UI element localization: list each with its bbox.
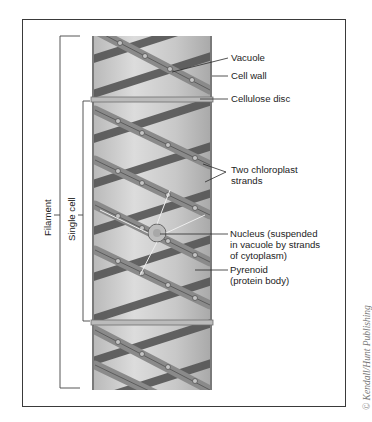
label-cellulose-disc: Cellulose disc (231, 93, 290, 104)
label-chloroplast-line2: strands (231, 175, 262, 186)
bracket-label-single-cell: Single cell (66, 197, 77, 241)
label-nucleus-line2: in vacuole by strands (230, 239, 320, 250)
label-nucleus-line3: of cytoplasm) (230, 250, 287, 261)
label-pyrenoid-line2: (protein body) (230, 275, 289, 286)
copyright-credit: © Kendall/Hunt Publishing (362, 305, 372, 410)
label-cell-wall: Cell wall (231, 70, 267, 81)
label-vacuole: Vacuole (231, 52, 265, 63)
label-pyrenoid-line1: Pyrenoid (230, 264, 268, 275)
label-chloroplast-line1: Two chloroplast (231, 164, 298, 175)
label-nucleus-line1: Nucleus (suspended (230, 228, 317, 239)
bracket-label-filament: Filament (42, 199, 53, 236)
